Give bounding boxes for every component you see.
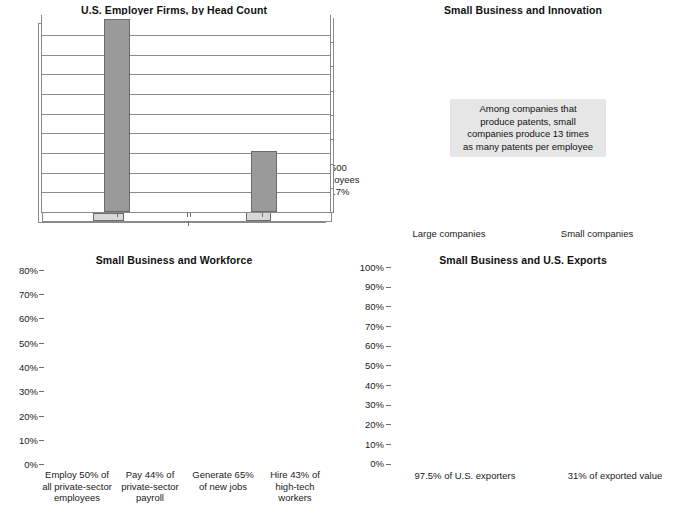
innovation-bar-large-companies[interactable] bbox=[93, 213, 124, 221]
exports-gridline-50 bbox=[42, 114, 330, 115]
exports-ytickmark-30 bbox=[386, 405, 391, 406]
workforce-ytickmark-20 bbox=[39, 416, 44, 417]
exports-ytick-100: 100% bbox=[350, 262, 384, 273]
workforce-ytick-60: 60% bbox=[2, 313, 38, 324]
workforce-ytick-0: 0% bbox=[2, 459, 38, 470]
workforce-ytick-50: 50% bbox=[2, 338, 38, 349]
workforce-ytick-70: 70% bbox=[2, 289, 38, 300]
exports-bar-1[interactable] bbox=[104, 19, 130, 212]
workforce-ytickmark-70 bbox=[39, 294, 44, 295]
exports-ytickmark-70 bbox=[386, 326, 391, 327]
workforce-xlabel-1: Employ 50% of all private-sector employe… bbox=[36, 469, 118, 504]
workforce-ytickmark-0 bbox=[39, 464, 44, 465]
innovation-xlabel-large-companies: Large companies bbox=[394, 228, 504, 240]
exports-ytickmark-60 bbox=[386, 346, 391, 347]
exports-gridline-90 bbox=[42, 35, 330, 36]
workforce-xlabel-3: Generate 65% of new jobs bbox=[182, 469, 264, 492]
exports-xlabel-2: 31% of exported value bbox=[545, 470, 685, 482]
workforce-ytick-30: 30% bbox=[2, 386, 38, 397]
exports-ytick-20: 20% bbox=[350, 419, 384, 430]
innovation-annotation-callout: Among companies that produce patents, sm… bbox=[450, 99, 606, 157]
exports-plot-area bbox=[41, 15, 331, 213]
exports-x-axis-tick bbox=[187, 212, 188, 217]
exports-gridline-70 bbox=[42, 74, 330, 75]
exports-ytickmark-20 bbox=[386, 424, 391, 425]
exports-ytick-30: 30% bbox=[350, 399, 384, 410]
workforce-ytickmark-40 bbox=[39, 367, 44, 368]
workforce-ytick-40: 40% bbox=[2, 362, 38, 373]
exports-bar-2[interactable] bbox=[251, 151, 277, 212]
exports-ytickmark-50 bbox=[386, 365, 391, 366]
innovation-chart-title: Small Business and Innovation bbox=[349, 4, 697, 16]
workforce-ytickmark-80 bbox=[39, 270, 44, 271]
exports-gridline-10 bbox=[42, 192, 330, 193]
exports-ytickmark-100 bbox=[386, 267, 391, 268]
innovation-x-axis-tick bbox=[188, 221, 189, 226]
workforce-ytick-10: 10% bbox=[2, 435, 38, 446]
exports-ytick-50: 50% bbox=[350, 360, 384, 371]
exports-ytickmark-90 bbox=[386, 287, 391, 288]
exports-gridline-80 bbox=[42, 55, 330, 56]
exports-gridline-20 bbox=[42, 173, 330, 174]
exports-ytick-10: 10% bbox=[350, 439, 384, 450]
exports-ytick-90: 90% bbox=[350, 281, 384, 292]
exports-ytick-40: 40% bbox=[350, 380, 384, 391]
workforce-ytickmark-50 bbox=[39, 343, 44, 344]
exports-gridline-60 bbox=[42, 94, 330, 95]
exports-xlabel-1: 97.5% of U.S. exporters bbox=[395, 470, 535, 482]
workforce-ytickmark-60 bbox=[39, 318, 44, 319]
exports-ytick-80: 80% bbox=[350, 301, 384, 312]
exports-ytickmark-80 bbox=[386, 306, 391, 307]
workforce-xlabel-2: Pay 44% of private-sector payroll bbox=[110, 469, 190, 504]
exports-ytick-60: 60% bbox=[350, 340, 384, 351]
innovation-xlabel-small-companies: Small companies bbox=[542, 228, 652, 240]
exports-ytickmark-10 bbox=[386, 444, 391, 445]
workforce-ytick-20: 20% bbox=[2, 411, 38, 422]
workforce-chart-title: Small Business and Workforce bbox=[0, 254, 348, 266]
workforce-ytickmark-10 bbox=[39, 440, 44, 441]
exports-gridline-30 bbox=[42, 153, 330, 154]
exports-ytick-0: 0% bbox=[350, 458, 384, 469]
exports-ytickmark-40 bbox=[386, 385, 391, 386]
exports-gridline-40 bbox=[42, 133, 330, 134]
workforce-ytickmark-30 bbox=[39, 391, 44, 392]
exports-chart-title: Small Business and U.S. Exports bbox=[349, 254, 697, 266]
workforce-xlabel-4: Hire 43% of high-tech workers bbox=[256, 469, 334, 504]
exports-ytick-70: 70% bbox=[350, 321, 384, 332]
exports-ytickmark-0 bbox=[386, 464, 391, 465]
workforce-ytick-80: 80% bbox=[2, 265, 38, 276]
